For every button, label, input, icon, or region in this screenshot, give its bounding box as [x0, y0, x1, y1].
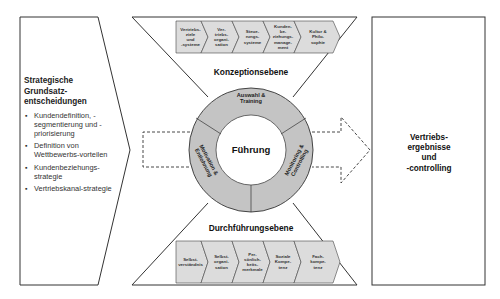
- chevron-label: Soziale Kompe- tenz: [268, 241, 298, 283]
- bullet-icon: ▪: [25, 111, 27, 120]
- results-label: Vertriebs- ergebnisse und -controlling: [372, 133, 486, 174]
- list-item: ▪Definition von Wettbewerbs-vorteilen: [24, 141, 124, 159]
- leadership-label: Führung: [216, 144, 286, 155]
- chevron-label: Selbst- verständnis: [176, 241, 205, 283]
- list-item-label: Kundenbeziehungs-strategie: [34, 163, 100, 181]
- list-item-label: Vertriebskanal-strategie: [34, 184, 112, 193]
- list-item: ▪Vertriebskanal-strategie: [24, 184, 124, 193]
- chevron-label: Per- sönlich- keits- merkmale: [238, 241, 267, 283]
- chevron-label: Steue- rungs- systeme: [238, 21, 267, 53]
- chevron-label: Selbst- organi- sation: [207, 241, 236, 283]
- strategy-title-line: Grundsatz-: [24, 87, 124, 98]
- strategy-title: Strategische Grundsatz- entscheidungen: [24, 76, 124, 108]
- concept-level-title: Konzeptionsebene: [200, 67, 302, 77]
- chevron-label: Fach- kompe- tenz: [301, 241, 335, 283]
- strategy-list: ▪Kundendefinition, -segmentierung und -p…: [24, 111, 124, 194]
- strategy-panel: Strategische Grundsatz- entscheidungen ▪…: [24, 76, 124, 196]
- execution-level-title: Durchführungsebene: [195, 223, 307, 233]
- chevron-label: Kunden- be- ziehungs- manage- ment: [268, 21, 298, 53]
- list-item-label: Definition von Wettbewerbs-vorteilen: [34, 141, 107, 159]
- bullet-icon: ▪: [25, 184, 27, 193]
- ring-segment-selection-training: Auswahl & Training: [226, 92, 276, 105]
- chevron-label: Ver- triebs- organi- sation: [207, 21, 236, 53]
- bullet-icon: ▪: [25, 141, 27, 150]
- chevron-label: Kultur & Philo- sophie: [301, 21, 335, 53]
- list-item-label: Kundendefinition, -segmentierung und -pr…: [34, 111, 102, 138]
- chevron-label: Vertriebs- ziele und -systeme: [176, 21, 205, 53]
- bullet-icon: ▪: [25, 163, 27, 172]
- strategy-title-line: entscheidungen: [24, 97, 124, 108]
- list-item: ▪Kundenbeziehungs-strategie: [24, 163, 124, 181]
- strategy-title-line: Strategische: [24, 76, 124, 87]
- list-item: ▪Kundendefinition, -segmentierung und -p…: [24, 111, 124, 139]
